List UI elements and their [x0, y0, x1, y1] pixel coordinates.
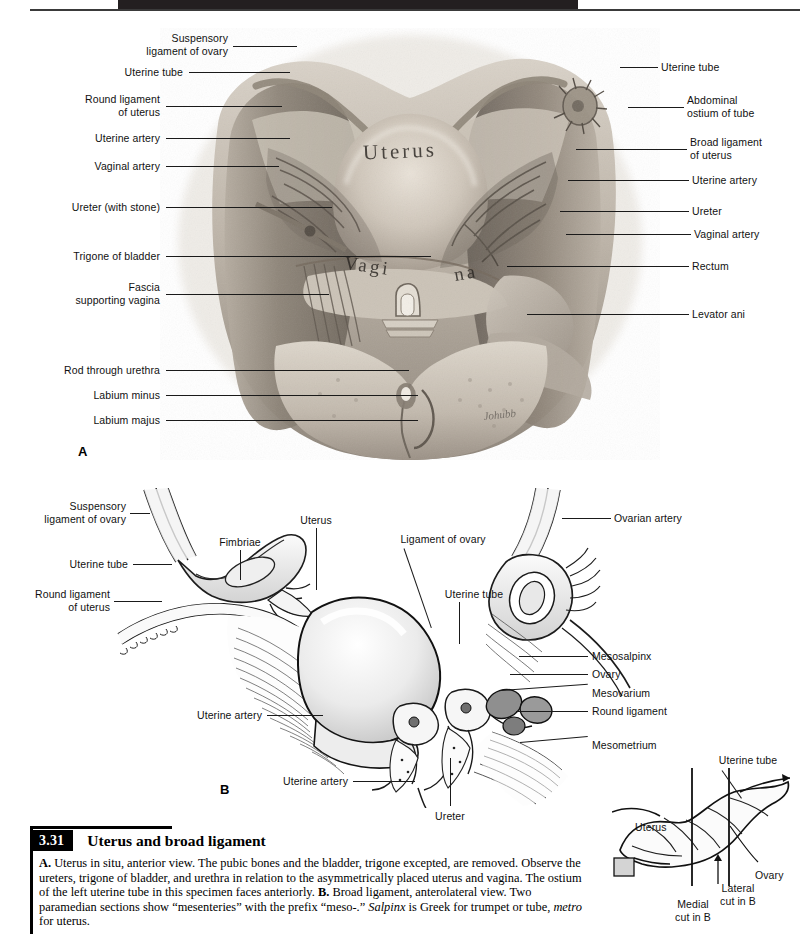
- label-uterine-tube-inset: Uterine tube: [719, 754, 777, 767]
- leader-uterine-artery-a-right: [568, 180, 689, 181]
- label-ligament-of-ovary-b: Ligament of ovary: [400, 533, 485, 546]
- leader-round-ligament-of-uterus-a: [166, 106, 282, 107]
- label-round-ligament-of-uterus-b: Round ligamentof uterus: [35, 588, 110, 613]
- label-uterine-tube-b-top: Uterine tube: [445, 588, 503, 601]
- leader-vaginal-artery-a: [166, 166, 279, 167]
- page-header-rule: [30, 9, 800, 11]
- figure-b-svg: [100, 488, 660, 808]
- label-broad-ligament-of-uterus-a: Broad ligamentof uterus: [690, 136, 762, 161]
- label-uterus-inset: Uterus: [635, 821, 667, 834]
- leader-labium-minus-a: [166, 395, 418, 396]
- leader-levator-ani-a: [527, 314, 689, 315]
- leader-uterine-artery-b-left: [267, 715, 323, 716]
- label-fascia-supporting-vagina-a: Fasciasupporting vagina: [75, 281, 160, 306]
- leader-trigone-of-bladder-a: [166, 256, 431, 257]
- label-vaginal-artery-a: Vaginal artery: [95, 160, 160, 173]
- leader-uterine-tube-b-top: [459, 602, 460, 644]
- label-labium-minus-a: Labium minus: [93, 389, 160, 402]
- label-abdominal-ostium-of-tube-a: Abdominalostium of tube: [687, 94, 754, 119]
- label-ovarian-artery-b: Ovarian artery: [614, 512, 682, 525]
- page-header-band: [118, 0, 578, 9]
- label-ureter-b: Ureter: [435, 810, 465, 823]
- label-uterine-artery-a-right: Uterine artery: [692, 174, 757, 187]
- figure-number-badge: 3.31: [30, 830, 73, 851]
- leader-uterine-tube-a: [189, 72, 290, 73]
- label-round-ligament-of-uterus-a: Round ligamentof uterus: [85, 93, 160, 118]
- figure-b-image: [100, 488, 660, 808]
- leader-ureter-b: [450, 758, 451, 806]
- leader-uterine-tube-a-right: [620, 67, 658, 68]
- leader-uterus-b: [316, 528, 317, 590]
- label-uterine-tube-b-left: Uterine tube: [70, 558, 128, 571]
- label-round-ligament-b: Round ligament: [592, 705, 667, 718]
- leader-ovarian-artery-b: [562, 518, 611, 519]
- leader-rectum-a: [507, 266, 689, 267]
- label-ovary-inset: Ovary: [755, 869, 784, 882]
- leader-round-ligament-of-uterus-b: [114, 601, 162, 602]
- leader-suspensory-ligament-of-ovary-b-2: [130, 513, 150, 514]
- label-ureter-with-stone-a: Ureter (with stone): [72, 201, 160, 214]
- label-uterine-artery-a: Uterine artery: [95, 132, 160, 145]
- label-rod-through-urethra-a: Rod through urethra: [64, 364, 160, 377]
- leader-uterine-artery-a: [166, 138, 290, 139]
- label-fimbriae-b: Fimbriae: [219, 536, 261, 549]
- figure-inset-image: [612, 768, 802, 918]
- leader-uterine-artery-b-bottom: [353, 781, 415, 782]
- leader-vaginal-artery-a-right: [566, 234, 691, 235]
- caption-header: 3.31 Uterus and broad ligament: [30, 830, 266, 851]
- leader-fimbriae-b: [240, 550, 241, 580]
- label-labium-majus-a: Labium majus: [93, 414, 160, 427]
- label-ovary-b: Ovary: [592, 668, 621, 681]
- label-trigone-of-bladder-a: Trigone of bladder: [73, 250, 160, 263]
- leader-broad-ligament-of-uterus-a: [576, 149, 687, 150]
- leader-round-ligament-b: [516, 711, 588, 712]
- label-medial-cut-in-b: Medialcut in B: [675, 898, 711, 923]
- leader-ureter-a-right: [560, 211, 689, 212]
- caption-body-text: A. Uterus in situ, anterior view. The pu…: [39, 856, 587, 929]
- panel-letter-a: A: [78, 444, 87, 459]
- label-suspensory-ligament-of-ovary-a: Suspensoryligament of ovary: [146, 32, 228, 57]
- leader-ureter-with-stone-a: [166, 207, 332, 208]
- figure-title: Uterus and broad ligament: [73, 830, 265, 851]
- leader-rod-through-urethra-a: [166, 370, 409, 371]
- specimen-word-uterus: Uterus: [362, 137, 437, 165]
- panel-letter-b: B: [220, 782, 229, 797]
- label-uterus-b: Uterus: [300, 514, 332, 527]
- label-ureter-a-right: Ureter: [692, 205, 722, 218]
- leader-mesosalpinx-b: [519, 656, 588, 657]
- leader-uterine-tube-b-left: [133, 564, 172, 565]
- specimen-word-na: na: [452, 260, 479, 286]
- label-vaginal-artery-a-right: Vaginal artery: [694, 228, 759, 241]
- leader-fascia-supporting-vagina-a: [166, 294, 329, 295]
- figure-inset-svg: [612, 768, 802, 918]
- label-lateral-cut-in-b: Lateralcut in B: [720, 882, 756, 907]
- leader-suspensory-ligament-of-ovary-a: [233, 46, 297, 47]
- leader-abdominal-ostium-of-tube-a: [628, 107, 684, 108]
- label-mesovarium-b: Mesovarium: [592, 687, 650, 700]
- label-levator-ani-a: Levator ani: [692, 308, 745, 321]
- caption-top-rule: [30, 826, 172, 829]
- label-uterine-tube-a: Uterine tube: [125, 66, 183, 79]
- label-suspensory-ligament-of-ovary-b: Suspensoryligament of ovary: [44, 500, 126, 525]
- label-mesometrium-b: Mesometrium: [592, 739, 657, 752]
- leader-labium-majus-a: [166, 420, 418, 421]
- label-mesosalpinx-b: Mesosalpinx: [592, 650, 651, 663]
- label-uterine-artery-b-bottom: Uterine artery: [283, 775, 348, 788]
- label-uterine-tube-a-right: Uterine tube: [661, 61, 719, 74]
- label-uterine-artery-b-left: Uterine artery: [197, 709, 262, 722]
- label-rectum-a: Rectum: [692, 260, 729, 273]
- leader-ovary-b: [510, 674, 588, 675]
